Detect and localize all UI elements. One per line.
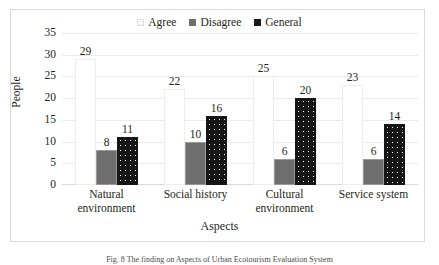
bar-value-label: 20: [300, 84, 312, 96]
legend-label-agree: Agree: [148, 16, 176, 28]
bar-value-label: 8: [104, 136, 110, 148]
y-tick-label: 35: [34, 27, 56, 39]
chart-legend: Agree Disagree General: [0, 14, 439, 30]
legend-label-general: General: [265, 16, 301, 28]
bar-value-label: 22: [169, 75, 181, 87]
y-axis-tick-labels: 35 30 25 20 15 10 5 0: [32, 33, 56, 185]
bar-general[interactable]: 20: [295, 98, 316, 185]
legend-entry-general[interactable]: General: [254, 16, 301, 28]
bar-agree[interactable]: 25: [253, 76, 274, 185]
legend-swatch-general-icon: [254, 19, 261, 26]
bar-group: 25 6 20: [240, 33, 329, 185]
bar-groups: 29 8 11 22 10: [62, 33, 418, 185]
bar-group: 23 6 14: [329, 33, 418, 185]
x-axis-title: Aspects: [0, 220, 439, 233]
x-axis-tick-labels: Natural environment Social history Cultu…: [62, 188, 418, 215]
bar-value-label: 16: [211, 102, 223, 114]
bar-disagree[interactable]: 8: [96, 150, 117, 185]
y-tick-label: 0: [34, 179, 56, 191]
bar-value-label: 25: [258, 62, 270, 74]
bar-disagree[interactable]: 10: [185, 142, 206, 185]
bar-value-label: 10: [190, 128, 202, 140]
bar-group: 22 10 16: [151, 33, 240, 185]
legend-entry-agree[interactable]: Agree: [137, 16, 176, 28]
bar-group: 29 8 11: [62, 33, 151, 185]
legend-entry-disagree[interactable]: Disagree: [189, 16, 241, 28]
y-tick-label: 30: [34, 49, 56, 61]
y-tick-label: 25: [34, 71, 56, 83]
legend-swatch-disagree-icon: [189, 19, 196, 26]
y-tick-label: 10: [34, 136, 56, 148]
bar-value-label: 11: [122, 123, 133, 135]
x-tick-label: Cultural environment: [240, 188, 329, 215]
legend-swatch-agree-icon: [137, 19, 144, 26]
bar-agree[interactable]: 22: [164, 89, 185, 185]
bar-agree[interactable]: 23: [342, 85, 363, 185]
bar-disagree[interactable]: 6: [274, 159, 295, 185]
bar-value-label: 29: [80, 45, 92, 57]
legend-label-disagree: Disagree: [200, 16, 241, 28]
figure-caption: Fig. 8 The finding on Aspects of Urban E…: [0, 255, 439, 265]
x-tick-label: Social history: [151, 188, 240, 215]
y-tick-label: 15: [34, 114, 56, 126]
y-tick-label: 20: [34, 92, 56, 104]
bar-value-label: 14: [389, 110, 401, 122]
y-axis-title: People: [10, 52, 22, 132]
bar-agree[interactable]: 29: [75, 59, 96, 185]
x-tick-label: Service system: [329, 188, 418, 215]
bar-general[interactable]: 14: [384, 124, 405, 185]
y-tick-label: 5: [34, 158, 56, 170]
figure-container: Agree Disagree General People 35 30 25 2…: [0, 0, 439, 265]
bar-value-label: 23: [347, 71, 359, 83]
bar-value-label: 6: [371, 145, 377, 157]
plot-area: 29 8 11 22 10: [62, 33, 418, 185]
bar-disagree[interactable]: 6: [363, 159, 384, 185]
bar-general[interactable]: 16: [206, 116, 227, 185]
x-tick-label: Natural environment: [62, 188, 151, 215]
bar-general[interactable]: 11: [117, 137, 138, 185]
bar-value-label: 6: [282, 145, 288, 157]
